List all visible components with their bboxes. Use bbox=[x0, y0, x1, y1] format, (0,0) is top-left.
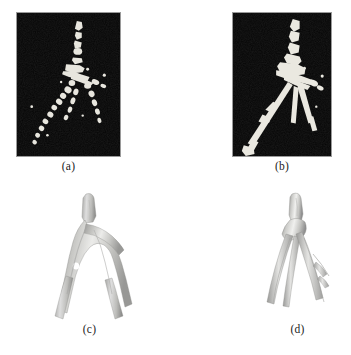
panel-d-caption: (d) bbox=[250, 323, 345, 335]
panel-b-image bbox=[232, 12, 332, 157]
panel-b-vessel-graphic bbox=[233, 13, 331, 156]
panel-c-surface-graphic bbox=[42, 190, 137, 320]
panel-b-caption: (b) bbox=[232, 160, 332, 172]
panel-d-image bbox=[250, 190, 345, 320]
panel-c-image bbox=[42, 190, 137, 320]
panel-a-caption: (a) bbox=[16, 160, 121, 172]
vessel-surface-d bbox=[267, 193, 329, 307]
vessel-surface-c bbox=[55, 194, 132, 320]
panel-c-caption: (c) bbox=[42, 323, 137, 335]
panel-a-image bbox=[16, 12, 121, 157]
figure-root: (a) bbox=[0, 0, 351, 355]
panel-a-vessel-graphic bbox=[17, 13, 120, 156]
panel-d-surface-graphic bbox=[250, 190, 345, 320]
